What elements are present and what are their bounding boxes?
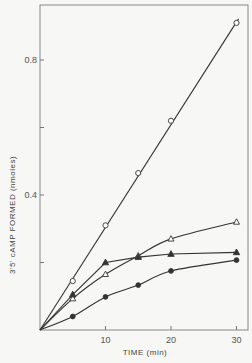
open-triangle-line [40, 222, 237, 330]
y-axis-ticks: 0.40.8 [24, 55, 44, 263]
open-circle-marker [234, 20, 239, 25]
y-axis-label: 3'5' cAMP FORMED (nmoles) [8, 156, 17, 274]
filled-triangle-marker [233, 249, 239, 255]
x-tick-label: 30 [231, 335, 241, 345]
filled-circle-marker [136, 283, 141, 288]
filled-circle-line [40, 260, 237, 330]
filled-circle-marker [70, 314, 75, 319]
y-tick-label: 0.8 [24, 55, 37, 65]
filled-circle-marker [234, 258, 239, 263]
x-tick-label: 10 [100, 335, 110, 345]
open-circle-marker [168, 118, 173, 123]
x-axis-ticks: 102030 [100, 326, 241, 345]
chart: 0.40.8 102030 TIME (min) 3'5' cAMP FORME… [0, 0, 252, 363]
open-circle-marker [70, 278, 75, 283]
x-axis-label: TIME (min) [123, 348, 168, 357]
open-circle-marker [103, 223, 108, 228]
filled-circle-marker [169, 269, 174, 274]
open-triangle-marker [103, 271, 109, 276]
series-markers [70, 20, 240, 319]
x-tick-label: 20 [166, 335, 176, 345]
open-circle-marker [136, 170, 141, 175]
filled-circle-marker [103, 295, 108, 300]
y-tick-label: 0.4 [24, 190, 37, 200]
open-triangle-marker [234, 219, 240, 224]
